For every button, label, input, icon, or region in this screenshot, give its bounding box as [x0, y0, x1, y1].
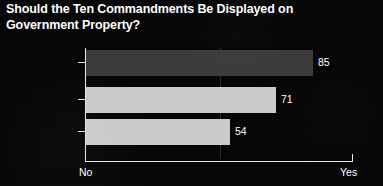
category-tick-democrats [78, 131, 86, 132]
category-tick-republicans [78, 62, 86, 63]
category-tick-independents [78, 99, 86, 100]
x-axis-label-yes: Yes [340, 166, 357, 179]
chart-title: Should the Ten Commandments Be Displayed… [6, 1, 306, 33]
bar-democrats [86, 119, 230, 145]
bar-independents [86, 87, 276, 113]
bar-value-independents: 71 [281, 93, 293, 106]
bar-value-democrats: 54 [235, 125, 247, 138]
bar-republicans [86, 50, 313, 76]
x-axis-left-cap [85, 154, 86, 162]
plot-area: Republicans 85 Independents 71 Democrats… [0, 44, 383, 186]
bar-value-republicans: 85 [318, 56, 330, 69]
x-axis-label-no: No [79, 166, 92, 179]
x-axis-line [85, 161, 353, 162]
chart-title-line-1: Should the Ten Commandments Be Displayed… [6, 1, 306, 17]
chart-title-line-2: Government Property? [6, 17, 306, 33]
x-axis-right-cap [352, 154, 353, 162]
chart-screenshot: Should the Ten Commandments Be Displayed… [0, 0, 383, 186]
